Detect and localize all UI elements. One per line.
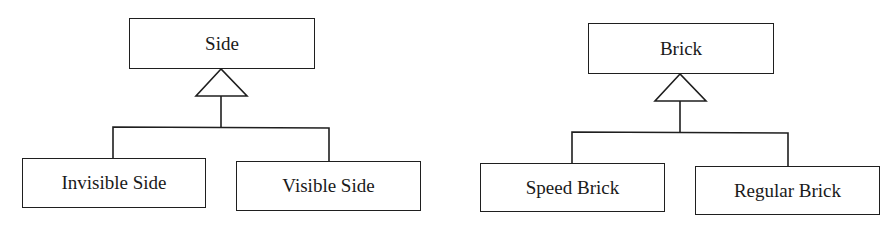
class-label: Speed Brick (526, 177, 619, 199)
connector-branch (113, 127, 329, 161)
class-box-speed-brick: Speed Brick (480, 163, 665, 212)
class-box-side: Side (129, 18, 315, 69)
class-label: Visible Side (282, 175, 374, 197)
class-label: Side (205, 33, 239, 55)
connector-branch (572, 132, 788, 166)
class-label: Regular Brick (734, 180, 841, 202)
generalization-arrow-icon (196, 69, 247, 96)
generalization-arrow-icon (655, 74, 706, 101)
class-box-invisible-side: Invisible Side (22, 158, 206, 208)
class-box-regular-brick: Regular Brick (695, 166, 880, 215)
class-box-brick: Brick (588, 23, 774, 74)
class-box-visible-side: Visible Side (236, 161, 421, 211)
class-label: Brick (660, 38, 702, 60)
class-label: Invisible Side (61, 172, 166, 194)
